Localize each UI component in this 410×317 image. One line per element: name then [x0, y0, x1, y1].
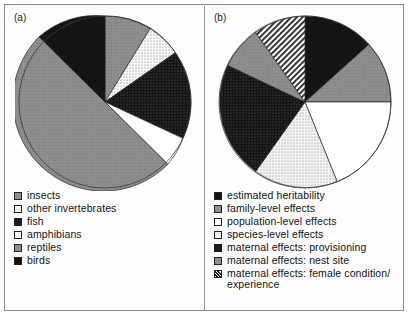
legend-b: estimated heritability family-level effe…	[214, 190, 404, 292]
legend-label-maternal-provisioning: maternal effects: provisioning	[227, 242, 366, 253]
swatch-population-level-effects-icon	[214, 218, 222, 226]
swatch-other-invertebrates-icon	[14, 205, 22, 213]
legend-label-insects: insects	[27, 190, 60, 201]
legend-item-fish: fish	[14, 216, 204, 227]
swatch-species-level-effects-icon	[214, 231, 222, 239]
legend-label-estimated-heritability: estimated heritability	[227, 190, 325, 201]
swatch-estimated-heritability-icon	[214, 192, 222, 200]
legend-label-fish: fish	[27, 216, 44, 227]
legend-label-population-level-effects: population-level effects	[227, 216, 337, 227]
pie-chart-a	[5, 13, 204, 193]
pie-a-svg	[15, 13, 195, 191]
legend-label-family-level-effects: family-level effects	[227, 203, 315, 214]
legend-label-amphibians: amphibians	[27, 229, 82, 240]
swatch-insects-icon	[14, 192, 22, 200]
legend-item-birds: birds	[14, 255, 204, 266]
pie-chart-b	[205, 13, 404, 193]
legend-label-species-level-effects: species-level effects	[227, 229, 323, 240]
swatch-family-level-effects-icon	[214, 205, 222, 213]
legend-a: insects other invertebrates fish amphibi…	[14, 190, 204, 268]
legend-item-estimated-heritability: estimated heritability	[214, 190, 404, 201]
legend-label-maternal-female-condition-line2: experience	[227, 279, 390, 290]
panel-a: (a)	[5, 5, 204, 310]
legend-item-maternal-nest-site: maternal effects: nest site	[214, 255, 404, 266]
swatch-maternal-provisioning-icon	[214, 244, 222, 252]
legend-item-maternal-provisioning: maternal effects: provisioning	[214, 242, 404, 253]
legend-label-maternal-female-condition: maternal effects: female condition/ expe…	[227, 268, 390, 290]
legend-item-family-level-effects: family-level effects	[214, 203, 404, 214]
pie-b-svg	[215, 13, 395, 191]
legend-item-population-level-effects: population-level effects	[214, 216, 404, 227]
swatch-maternal-female-condition-icon	[214, 270, 222, 278]
legend-label-maternal-nest-site: maternal effects: nest site	[227, 255, 349, 266]
panel-b: (b)	[205, 5, 404, 310]
legend-item-species-level-effects: species-level effects	[214, 229, 404, 240]
swatch-reptiles-icon	[14, 244, 22, 252]
legend-label-reptiles: reptiles	[27, 242, 62, 253]
legend-item-insects: insects	[14, 190, 204, 201]
legend-label-birds: birds	[27, 255, 50, 266]
legend-item-maternal-female-condition: maternal effects: female condition/ expe…	[214, 268, 404, 290]
swatch-birds-icon	[14, 257, 22, 265]
swatch-maternal-nest-site-icon	[214, 257, 222, 265]
legend-label-other-invertebrates: other invertebrates	[27, 203, 116, 214]
legend-item-other-invertebrates: other invertebrates	[14, 203, 204, 214]
swatch-fish-icon	[14, 218, 22, 226]
legend-item-amphibians: amphibians	[14, 229, 204, 240]
figure-frame: (a)	[4, 4, 404, 311]
legend-item-reptiles: reptiles	[14, 242, 204, 253]
swatch-amphibians-icon	[14, 231, 22, 239]
